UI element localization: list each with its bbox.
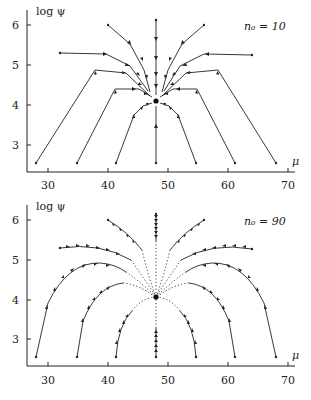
x-tick-label: 50 — [161, 179, 175, 192]
x-tick-label: 40 — [101, 374, 115, 387]
y-axis-label: log ψ — [36, 5, 65, 18]
trajectory — [162, 25, 204, 92]
x-tick-label: 50 — [161, 374, 175, 387]
trajectories — [35, 213, 277, 358]
trajectory — [116, 103, 152, 163]
trajectory — [186, 263, 276, 357]
trajectory — [116, 311, 132, 357]
arrowheads — [94, 37, 219, 128]
y-axis-label: log ψ — [36, 200, 65, 213]
dotted-connectors — [123, 241, 189, 328]
trajectory — [60, 53, 148, 91]
x-tick-label: 70 — [281, 179, 295, 192]
y-tick-label: 5 — [12, 59, 19, 72]
y-tick-label: 4 — [12, 294, 19, 307]
trajectory — [77, 283, 123, 357]
arrowheads — [45, 215, 267, 352]
trajectory — [164, 54, 252, 91]
trajectory — [160, 103, 196, 163]
x-tick-label: 40 — [101, 179, 115, 192]
trajectory — [181, 247, 252, 260]
panel-top: 6 5 4 3 30 40 50 60 70 log ψ μ n₀ = 10 — [12, 5, 299, 192]
trajectory — [160, 89, 235, 163]
x-tick-label: 30 — [41, 179, 55, 192]
x-axis-label: μ — [292, 155, 299, 168]
x-tick-label: 70 — [281, 374, 295, 387]
y-tick-label: 4 — [12, 99, 19, 112]
trajectory — [189, 283, 235, 357]
y-tick-label: 3 — [12, 139, 19, 152]
panel-annotation: n₀ = 10 — [244, 20, 286, 33]
trajectory — [36, 263, 126, 357]
y-tick-label: 3 — [12, 333, 19, 346]
fixed-point — [153, 294, 158, 299]
trajectory — [60, 247, 131, 261]
panel-bottom: 6 5 4 3 30 40 50 60 70 log ψ μ n₀ = 90 — [12, 200, 299, 387]
trajectory — [180, 311, 196, 357]
panel-annotation: n₀ = 90 — [244, 215, 286, 228]
trajectory — [77, 89, 152, 163]
x-tick-label: 30 — [41, 374, 55, 387]
figure: 6 5 4 3 30 40 50 60 70 log ψ μ n₀ = 10 — [0, 0, 311, 400]
x-tick-label: 60 — [221, 179, 235, 192]
y-tick-label: 6 — [12, 214, 19, 227]
y-tick-label: 5 — [12, 254, 19, 267]
x-tick-label: 60 — [221, 374, 235, 387]
trajectories — [35, 19, 277, 164]
x-axis-label: μ — [292, 349, 299, 362]
y-tick-label: 6 — [12, 19, 19, 32]
fixed-point — [153, 98, 158, 103]
